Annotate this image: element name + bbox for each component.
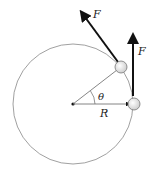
angle-arc bbox=[91, 91, 96, 104]
circular-motion-diagram: F F θ R bbox=[0, 0, 157, 178]
force-label-right: F bbox=[137, 45, 146, 58]
force-label-top: F bbox=[92, 8, 101, 21]
ball-upper bbox=[115, 61, 127, 73]
radius-label: R bbox=[99, 107, 108, 120]
ball-right bbox=[128, 98, 140, 110]
angle-label: θ bbox=[98, 91, 104, 102]
radius-line-angled bbox=[73, 70, 117, 104]
